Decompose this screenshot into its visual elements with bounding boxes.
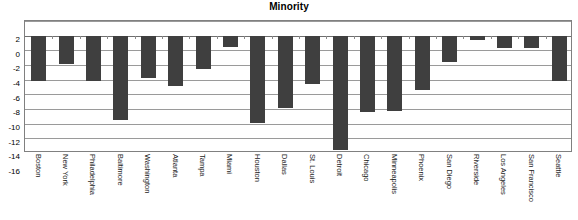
x-axis-tick [491,36,492,39]
x-axis-label-chicago: Chicago [353,153,380,220]
x-axis-tick [189,36,190,39]
x-axis-label-text: New York [61,154,69,186]
bar [250,36,265,123]
x-axis-tick [244,36,245,39]
x-axis-label-text: Houston [253,154,261,182]
y-tick-label: -16 [8,168,20,176]
x-axis-label-dallas: Dallas [271,153,298,220]
bar [168,36,183,86]
chart-title: Minority [0,1,578,12]
y-tick-label: -2 [13,65,20,73]
x-axis-label-text: San Francisco [527,154,535,202]
bar [278,36,293,108]
x-axis-label-detroit: Detroit [325,153,352,220]
x-axis-label-miami: Miami [216,153,243,220]
bar [305,36,320,84]
x-axis-label-los-angeles: Los Angeles [490,153,517,220]
x-axis-label-baltimore: Baltimore [106,153,133,220]
x-axis: BostonNew YorkPhiladelphiaBaltimoreWashi… [24,153,572,220]
bar [31,36,46,81]
gridline-neg2 [25,50,571,51]
x-axis-label-text: Seattle [554,154,562,177]
plot-area [24,20,572,152]
x-axis-label-houston: Houston [243,153,270,220]
bar [196,36,211,69]
x-axis-label-text: Baltimore [116,154,124,186]
x-axis-label-san-francisco: San Francisco [517,153,544,220]
x-axis-label-text: St. Louis [308,154,316,183]
x-axis-label-san-diego: San Diego [435,153,462,220]
x-axis-tick [80,36,81,39]
x-axis-label-new-york: New York [51,153,78,220]
gridline-neg4 [25,65,571,66]
x-axis-tick [354,36,355,39]
x-axis-label-text: Miami [225,154,233,174]
x-axis-tick [272,36,273,39]
x-axis-label-st-louis: St. Louis [298,153,325,220]
bar [360,36,375,112]
y-axis: 20-2-4-6-8-10-12-14-16 [0,20,22,152]
bar [387,36,402,111]
x-axis-label-text: Chicago [362,154,370,182]
y-tick-label: -10 [8,124,20,132]
gridline-neg10 [25,109,571,110]
x-axis-tick [217,36,218,39]
x-axis-label-text: Boston [34,154,42,177]
x-axis-tick [463,36,464,39]
x-axis-tick [299,36,300,39]
bar [470,36,485,40]
bar [223,36,238,47]
x-axis-tick [409,36,410,39]
x-axis-tick [135,36,136,39]
x-axis-tick [436,36,437,39]
bar [333,36,348,150]
x-axis-label-text: Philadelphia [88,154,96,195]
y-tick-label: 0 [16,51,20,59]
x-axis-tick [381,36,382,39]
y-tick-label: -12 [8,139,20,147]
x-axis-label-text: Minneapolis [390,154,398,194]
x-axis-label-text: Riverside [472,154,480,185]
x-axis-label-washington: Washington [134,153,161,220]
gridline-neg8 [25,94,571,95]
x-axis-label-text: Washington [143,154,151,193]
x-axis-label-text: San Diego [445,154,453,189]
bar [552,36,567,81]
bar [86,36,101,81]
bar [524,36,539,48]
x-axis-tick [546,36,547,39]
x-axis-label-philadelphia: Philadelphia [79,153,106,220]
gridline-neg12 [25,124,571,125]
gridline-neg14 [25,138,571,139]
x-axis-tick [162,36,163,39]
gridline-neg6 [25,80,571,81]
x-axis-label-atlanta: Atlanta [161,153,188,220]
x-axis-label-text: Phoenix [417,154,425,181]
y-tick-label: -14 [8,153,20,161]
x-axis-label-text: Dallas [280,154,288,175]
x-axis-tick [52,36,53,39]
bar [113,36,128,120]
minority-bar-chart: Minority 20-2-4-6-8-10-12-14-16 BostonNe… [0,0,578,220]
y-tick-label: 2 [16,36,20,44]
x-axis-tick [107,36,108,39]
x-axis-tick [326,36,327,39]
x-axis-label-text: Atlanta [171,154,179,177]
x-axis-label-boston: Boston [24,153,51,220]
y-tick-label: -8 [13,109,20,117]
bar [59,36,74,64]
x-axis-label-seattle: Seattle [545,153,572,220]
bar [442,36,457,62]
x-axis-label-minneapolis: Minneapolis [380,153,407,220]
x-axis-label-text: Detroit [335,154,343,176]
gridline-2 [25,21,571,22]
bar [141,36,156,78]
x-axis-label-riverside: Riverside [462,153,489,220]
x-axis-label-text: Tampa [198,154,206,177]
bar [415,36,430,90]
x-axis-label-text: Los Angeles [499,154,507,195]
y-tick-label: -4 [13,80,20,88]
bar [497,36,512,48]
y-tick-label: -6 [13,95,20,103]
x-axis-label-phoenix: Phoenix [408,153,435,220]
